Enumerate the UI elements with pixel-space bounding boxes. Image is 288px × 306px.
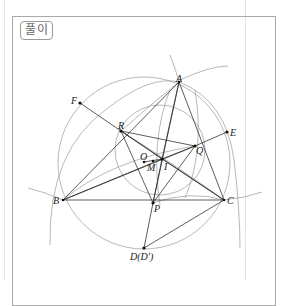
point-F: [78, 101, 81, 104]
label-P: P: [153, 203, 160, 214]
segment-QE: [195, 132, 227, 146]
point-C: [223, 199, 226, 202]
arc-inner-5: [157, 90, 170, 205]
label-F: F: [70, 95, 78, 106]
label-C: C: [227, 195, 234, 206]
arc-A-right: [180, 66, 228, 80]
point-E: [225, 130, 228, 133]
label-A: A: [175, 73, 183, 84]
segment-AC: [179, 82, 224, 200]
label-O: O: [140, 151, 147, 162]
label-E: E: [229, 127, 236, 138]
label-B: B: [53, 195, 59, 206]
label-R: R: [117, 120, 124, 131]
label-D: D(D'): [129, 251, 154, 263]
label-I: I: [163, 161, 168, 172]
segment-AB: [63, 82, 179, 200]
arc-inner-4: [153, 196, 224, 203]
point-D: [142, 246, 145, 249]
arc-centered-C: [50, 81, 179, 245]
segment-PD: [144, 203, 153, 248]
label-M: M: [146, 162, 156, 173]
inner-circle: [115, 105, 205, 195]
label-Q: Q: [196, 145, 204, 156]
point-B: [62, 199, 65, 202]
